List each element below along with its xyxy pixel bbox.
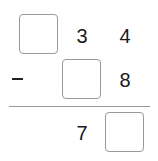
blank-box-row1-hundreds[interactable] bbox=[19, 14, 58, 54]
digit-row2-ones: 8 bbox=[115, 70, 135, 90]
minus-sign bbox=[12, 78, 23, 80]
digit-result-tens: 7 bbox=[72, 123, 92, 143]
digit-row1-ones: 4 bbox=[115, 26, 135, 46]
blank-box-result-ones[interactable] bbox=[105, 112, 144, 152]
digit-row1-tens: 3 bbox=[72, 26, 92, 46]
result-divider-line bbox=[9, 106, 150, 107]
blank-box-row2-tens[interactable] bbox=[62, 59, 101, 99]
